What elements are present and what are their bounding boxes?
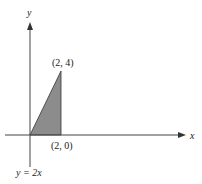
x-axis-arrow-icon: [178, 132, 186, 138]
curve-label: y = 2x: [16, 168, 42, 178]
point-label-2-0: (2, 0): [51, 141, 73, 151]
y-axis-arrow-icon: [27, 22, 33, 30]
y-axis-label: y: [27, 8, 31, 18]
shaded-region: [30, 71, 61, 135]
diagram-canvas: y x (2, 4) (2, 0) y = 2x: [0, 0, 202, 184]
plot-area: [0, 0, 202, 184]
point-label-2-4: (2, 4): [52, 58, 74, 68]
x-axis-label: x: [190, 131, 194, 141]
